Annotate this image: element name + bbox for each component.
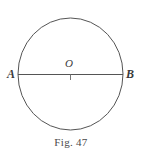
point-label-b: B <box>126 68 134 80</box>
figure-caption: Fig. 47 <box>0 136 142 148</box>
point-label-a: A <box>7 68 15 80</box>
point-label-o: O <box>65 58 73 69</box>
geometry-drawing <box>0 0 142 153</box>
figure-container: A O B Fig. 47 <box>0 0 142 153</box>
